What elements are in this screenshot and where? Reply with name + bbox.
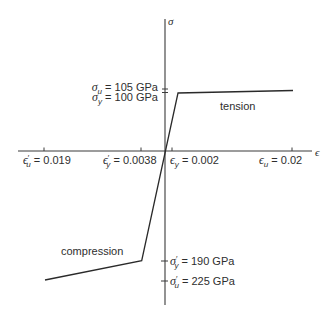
value: = 0.02 — [268, 154, 302, 166]
epsilon-y-label: ϵy = 0.002 — [170, 153, 219, 169]
sigma-prime-y-label: σ′y = 190 GPa — [170, 254, 235, 270]
sigma-prime-u-label: σ′u = 225 GPa — [170, 274, 236, 290]
stress-strain-diagram: σ ϵ tension compression σu = 105 GPa σy … — [0, 0, 330, 321]
epsilon-prime-y-label: ϵ′y = 0.0038 — [103, 153, 157, 169]
stress-axis-label: σ — [168, 15, 174, 27]
epsilon-prime-u-label: ϵ′u = 0.019 — [23, 153, 71, 169]
value: = 225 GPa — [179, 275, 236, 287]
value: = 100 GPa — [102, 91, 159, 103]
epsilon-u-label: ϵu = 0.02 — [259, 153, 302, 169]
value: = 0.0038 — [110, 154, 156, 166]
tension-label: tension — [220, 100, 255, 112]
value: = 190 GPa — [178, 255, 235, 267]
sigma-y-label: σy = 100 GPa — [92, 90, 159, 106]
value: = 0.019 — [31, 154, 71, 166]
value: = 0.002 — [179, 154, 219, 166]
strain-axis-label: ϵ — [315, 146, 320, 158]
compression-label: compression — [61, 245, 123, 257]
